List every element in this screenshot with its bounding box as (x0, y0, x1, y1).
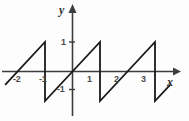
y-axis (69, 4, 77, 116)
y-tick-label-1: 1 (61, 38, 66, 47)
x-axis-label: x (167, 76, 173, 88)
x-tick-label-minus-2: -2 (13, 75, 20, 84)
x-tick-label-1: 1 (87, 75, 92, 84)
x-tick-label-3: 3 (141, 75, 146, 84)
plot-canvas (0, 0, 189, 121)
y-axis-arrowhead (69, 4, 77, 13)
y-axis-label: y (59, 4, 64, 16)
sawtooth-wave-figure: -2 -1 1 2 3 1 -1 y x (0, 0, 189, 121)
x-tick-label-2: 2 (114, 75, 119, 84)
y-tick-label-minus-1: -1 (57, 85, 64, 94)
x-tick-label-minus-1: -1 (39, 75, 46, 84)
x-axis-arrowhead (173, 68, 181, 76)
